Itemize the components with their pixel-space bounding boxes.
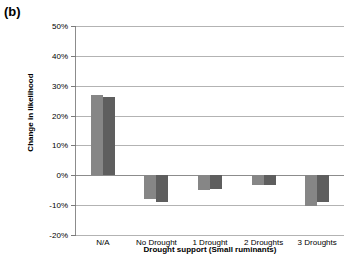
bar: [156, 175, 168, 202]
bar: [305, 175, 317, 205]
y-axis-tick-label: 20%: [52, 111, 68, 120]
bar: [252, 175, 264, 185]
y-axis-tick: [71, 56, 76, 57]
y-axis-line: [75, 26, 76, 235]
y-axis-tick-label: 10%: [52, 141, 68, 150]
y-axis-tick-label: 50%: [52, 22, 68, 31]
y-axis-tick: [71, 175, 76, 176]
y-axis-tick-label: 0%: [56, 171, 68, 180]
bar: [91, 95, 103, 175]
plot-area: 50%40%30%20%10%0%-10%-20% N/ANo Drought1…: [76, 26, 344, 235]
bar: [317, 175, 329, 201]
gridline: [76, 145, 344, 146]
y-axis-tick-label: -10%: [49, 201, 68, 210]
figure-panel-b: (b) Change in likelihood 50%40%30%20%10%…: [0, 0, 349, 266]
gridline: [76, 205, 344, 206]
gridline: [76, 26, 344, 27]
bar: [144, 175, 156, 199]
y-axis-tick: [71, 205, 76, 206]
y-axis-tick: [71, 145, 76, 146]
y-axis-tick: [71, 116, 76, 117]
y-axis-tick-label: -20%: [49, 231, 68, 240]
y-axis-tick-label: 40%: [52, 51, 68, 60]
gridline: [76, 116, 344, 117]
bar: [198, 175, 210, 190]
gridline: [76, 235, 344, 236]
x-axis-title: Drought support (Small ruminants): [76, 245, 344, 254]
y-axis-tick: [71, 235, 76, 236]
y-axis-tick: [71, 26, 76, 27]
y-axis-tick-label: 30%: [52, 81, 68, 90]
y-axis-title: Change in likelihood: [26, 53, 35, 173]
y-axis-tick: [71, 86, 76, 87]
gridline: [76, 56, 344, 57]
gridline: [76, 86, 344, 87]
bar: [264, 175, 276, 185]
panel-label: (b): [4, 4, 21, 19]
bar: [210, 175, 222, 189]
bar: [103, 97, 115, 175]
